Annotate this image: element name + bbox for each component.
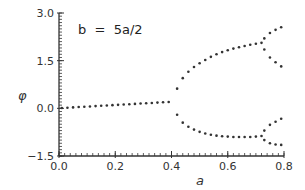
y-axis-label: φ xyxy=(18,88,27,103)
data-point xyxy=(221,135,224,138)
data-point xyxy=(260,135,263,138)
data-point xyxy=(100,104,103,107)
data-point xyxy=(274,143,277,146)
data-point xyxy=(181,121,184,124)
data-points xyxy=(61,26,283,146)
series-upper-branch xyxy=(176,42,263,90)
data-point xyxy=(269,124,272,127)
data-point xyxy=(274,61,277,64)
data-point xyxy=(263,37,266,40)
data-point xyxy=(111,104,114,107)
y-tick-label: 0.0 xyxy=(37,102,55,115)
y-tick-label: 3.0 xyxy=(37,7,55,20)
data-point xyxy=(193,128,196,131)
data-point xyxy=(193,66,196,69)
data-point xyxy=(89,105,92,108)
data-point xyxy=(238,136,241,139)
data-point xyxy=(280,26,283,29)
x-tick-label: 0.4 xyxy=(163,160,181,173)
data-point xyxy=(232,136,235,139)
data-point xyxy=(255,135,258,138)
data-point xyxy=(117,104,120,107)
data-point xyxy=(145,102,148,105)
data-point xyxy=(198,62,201,65)
data-point xyxy=(274,120,277,123)
data-point xyxy=(176,87,179,90)
data-point xyxy=(176,113,179,116)
data-point xyxy=(167,101,170,104)
series-single-branch xyxy=(61,101,170,110)
data-point xyxy=(72,106,75,109)
data-point xyxy=(269,142,272,145)
data-point xyxy=(263,48,266,51)
data-point xyxy=(226,135,229,138)
data-point xyxy=(221,51,224,54)
data-point xyxy=(122,103,125,106)
data-point xyxy=(210,56,213,59)
data-point xyxy=(280,65,283,68)
series-lower-branch-low xyxy=(263,139,282,146)
data-point xyxy=(263,139,266,142)
data-point xyxy=(151,102,154,105)
data-point xyxy=(226,49,229,52)
x-tick-labels: 0.00.20.40.60.8 xyxy=(50,160,293,173)
data-point xyxy=(263,129,266,132)
data-point xyxy=(204,132,207,135)
y-tick-label: 1.5 xyxy=(37,55,55,68)
data-point xyxy=(280,118,283,121)
data-point xyxy=(255,43,258,46)
data-point xyxy=(66,106,69,109)
data-point xyxy=(232,47,235,50)
bifurcation-chart: −1.50.01.53.0 0.00.20.40.60.8 b = 5a/2 φ… xyxy=(0,0,305,190)
data-point xyxy=(249,43,252,46)
x-tick-label: 0.0 xyxy=(50,160,68,173)
data-point xyxy=(243,136,246,139)
data-point xyxy=(187,70,190,73)
data-point xyxy=(106,104,109,107)
data-point xyxy=(128,103,131,106)
data-point xyxy=(274,29,277,32)
data-point xyxy=(210,133,213,136)
data-point xyxy=(198,131,201,134)
data-point xyxy=(134,103,137,106)
data-point xyxy=(83,105,86,108)
data-point xyxy=(162,101,165,104)
y-tick-labels: −1.50.01.53.0 xyxy=(27,7,54,163)
data-point xyxy=(215,53,218,56)
data-point xyxy=(61,107,64,110)
series-upper-branch-low xyxy=(263,48,282,67)
data-point xyxy=(243,45,246,48)
series-lower-branch-high xyxy=(263,118,282,132)
x-tick-label: 0.2 xyxy=(107,160,125,173)
data-point xyxy=(260,42,263,45)
series-lower-branch xyxy=(176,113,263,138)
data-point xyxy=(156,101,159,104)
data-point xyxy=(249,136,252,139)
data-point xyxy=(269,32,272,35)
data-point xyxy=(181,77,184,80)
equation-annotation: b = 5a/2 xyxy=(78,22,143,37)
data-point xyxy=(204,59,207,62)
data-point xyxy=(280,144,283,147)
series-upper-branch-high xyxy=(263,26,282,40)
data-point xyxy=(94,105,97,108)
x-tick-label: 0.8 xyxy=(275,160,293,173)
data-point xyxy=(77,106,80,109)
data-point xyxy=(139,102,142,105)
data-point xyxy=(187,125,190,128)
x-axis-label: a xyxy=(196,173,204,188)
data-point xyxy=(238,46,241,49)
x-tick-label: 0.6 xyxy=(219,160,237,173)
data-point xyxy=(215,134,218,137)
data-point xyxy=(269,56,272,59)
